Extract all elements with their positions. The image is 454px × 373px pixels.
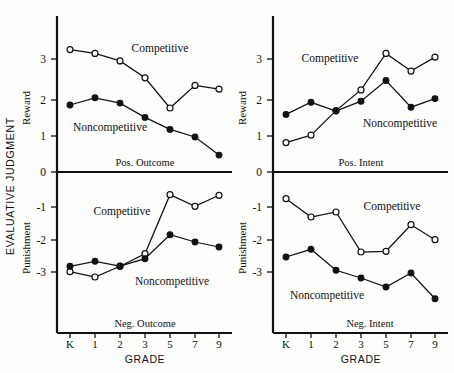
data-point (167, 126, 173, 132)
left-xticks: K 1 2 3 5 7 9 (66, 333, 222, 350)
right-x-axis-title: GRADE (341, 353, 381, 365)
data-point (92, 258, 98, 264)
data-point (142, 256, 148, 262)
right-top-yticks: 3 2 1 0 (256, 53, 273, 178)
r-ytick-1: 1 (256, 130, 262, 142)
annot-competitive-tl: Competitive (132, 42, 189, 55)
data-point (358, 275, 364, 281)
right-top-data (283, 50, 438, 145)
annot-competitive-tr: Competitive (302, 52, 359, 65)
r-ytick-neg1: -1 (252, 201, 262, 213)
data-point (383, 50, 389, 56)
ytick-1: 1 (40, 130, 46, 142)
data-point (283, 254, 289, 260)
data-point (308, 214, 314, 220)
data-point (408, 222, 414, 228)
figure-container: EVALUATIVE JUDGMENT 3 2 1 0 (0, 0, 454, 373)
data-point (167, 232, 173, 238)
right-reward-label: Reward (236, 90, 248, 125)
r-xtick-9: 9 (432, 338, 438, 350)
left-punishment-label: Punishment (20, 222, 32, 274)
r-xtick-1: 1 (308, 338, 314, 350)
y-axis-title: EVALUATIVE JUDGMENT (4, 117, 16, 255)
data-point (192, 203, 198, 209)
data-point (308, 246, 314, 252)
xtick-1: 1 (92, 338, 98, 350)
right-xticks: K 1 2 3 5 7 9 (282, 333, 438, 350)
xtick-k: K (66, 338, 74, 350)
left-x-axis-title: GRADE (125, 353, 165, 365)
xtick-2: 2 (117, 338, 123, 350)
r-ytick-0: 0 (256, 166, 262, 178)
annot-noncompetitive-tr: Noncompetitive (363, 117, 437, 130)
data-point (283, 196, 289, 202)
data-point (117, 263, 123, 269)
caption-neg-outcome: Neg. Outcome (114, 318, 176, 329)
xtick-9: 9 (216, 338, 222, 350)
data-point (216, 152, 222, 158)
data-point (383, 284, 389, 290)
data-point (167, 105, 173, 111)
r-xtick-5: 5 (383, 338, 389, 350)
left-top-yticks: 3 2 1 0 (40, 53, 57, 178)
left-reward-label: Reward (20, 90, 32, 125)
data-point (408, 68, 414, 74)
data-point (117, 100, 123, 106)
data-point (67, 102, 73, 108)
r-xtick-3: 3 (358, 338, 364, 350)
right-bottom-yticks: -1 -2 -3 (252, 201, 273, 278)
xtick-7: 7 (192, 338, 198, 350)
data-point (283, 140, 289, 146)
ytick-0: 0 (40, 166, 46, 178)
data-point (408, 104, 414, 110)
caption-neg-intent: Neg. Intent (346, 318, 393, 329)
ytick-neg3: -3 (36, 266, 46, 278)
chart-svg: EVALUATIVE JUDGMENT 3 2 1 0 (0, 0, 454, 373)
r-ytick-3: 3 (256, 53, 262, 65)
annot-noncompetitive-br: Noncompetitive (290, 289, 364, 302)
data-point (92, 50, 98, 56)
data-point (333, 108, 339, 114)
ytick-3: 3 (40, 53, 46, 65)
data-point (283, 112, 289, 118)
r-xtick-2: 2 (333, 338, 339, 350)
data-point (432, 296, 438, 302)
ytick-2: 2 (40, 94, 46, 106)
data-point (192, 82, 198, 88)
data-point (216, 244, 222, 250)
annot-competitive-br: Competitive (364, 200, 421, 213)
left-top-data (67, 47, 222, 158)
data-point (92, 95, 98, 101)
r-ytick-neg2: -2 (252, 234, 262, 246)
data-point (67, 263, 73, 269)
data-point (117, 58, 123, 64)
data-point (383, 78, 389, 84)
data-point (432, 237, 438, 243)
data-point (142, 75, 148, 81)
r-ytick-2: 2 (256, 94, 262, 106)
caption-pos-outcome: Pos. Outcome (116, 157, 175, 168)
right-punishment-label: Punishment (236, 222, 248, 274)
data-point (333, 267, 339, 273)
annot-competitive-bl: Competitive (94, 205, 151, 218)
data-point (432, 96, 438, 102)
ytick-neg1: -1 (36, 201, 46, 213)
data-point (67, 47, 73, 53)
data-point (216, 192, 222, 198)
r-xtick-k: K (282, 338, 290, 350)
data-point (383, 248, 389, 254)
data-point (432, 54, 438, 60)
data-point (192, 134, 198, 140)
data-point (308, 99, 314, 105)
annot-noncompetitive-bl: Noncompetitive (135, 275, 209, 288)
r-xtick-7: 7 (408, 338, 414, 350)
xtick-3: 3 (142, 338, 148, 350)
r-ytick-neg3: -3 (252, 266, 262, 278)
data-point (92, 274, 98, 280)
data-point (308, 132, 314, 138)
annot-noncompetitive-tl: Noncompetitive (73, 121, 147, 134)
xtick-5: 5 (167, 338, 173, 350)
data-point (358, 87, 364, 93)
caption-pos-intent: Pos. Intent (339, 157, 384, 168)
data-point (142, 115, 148, 121)
